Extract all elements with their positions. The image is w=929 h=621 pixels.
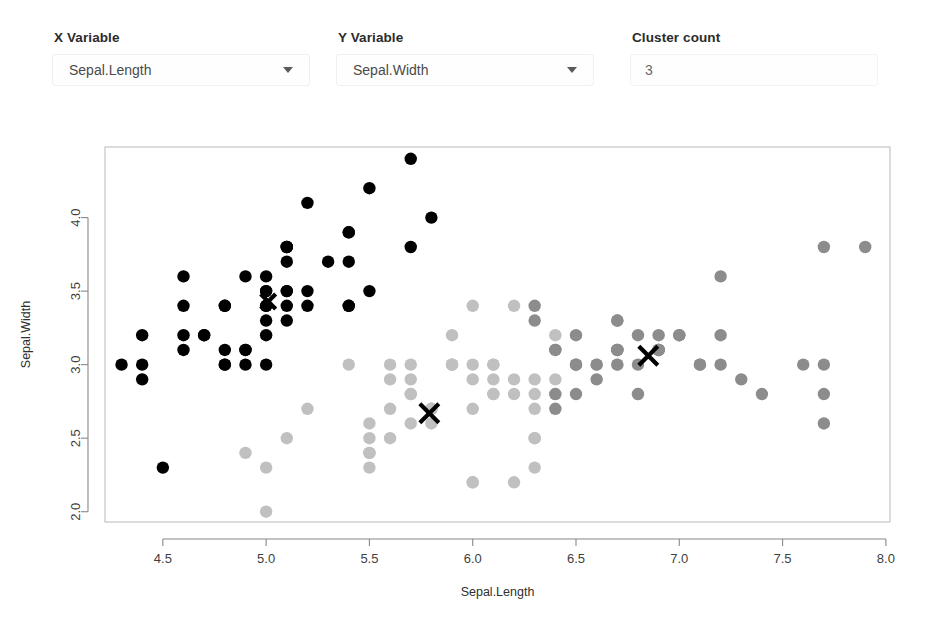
data-point [508, 476, 520, 488]
data-point [467, 300, 479, 312]
x-axis-tick-label: 6.0 [464, 551, 482, 566]
data-point [281, 256, 293, 268]
data-point [528, 388, 540, 400]
data-point [239, 344, 251, 356]
cluster-count-input[interactable]: 3 [630, 54, 878, 86]
data-point [818, 388, 830, 400]
chevron-down-icon[interactable] [283, 67, 293, 73]
data-point [652, 329, 664, 341]
data-point [590, 358, 602, 370]
data-point [343, 226, 355, 238]
data-point [446, 329, 458, 341]
y-axis-tick-label: 3.5 [69, 282, 84, 300]
data-point [818, 417, 830, 429]
data-point [363, 461, 375, 473]
data-point [570, 329, 582, 341]
data-point [219, 344, 231, 356]
data-point [425, 211, 437, 223]
data-point [405, 153, 417, 165]
data-point [136, 373, 148, 385]
data-point [487, 373, 499, 385]
data-point [363, 447, 375, 459]
data-point [673, 329, 685, 341]
data-point [632, 329, 644, 341]
data-point [260, 358, 272, 370]
data-point [363, 432, 375, 444]
x-axis-tick-label: 5.5 [360, 551, 378, 566]
data-point [549, 403, 561, 415]
plot-frame [105, 147, 890, 522]
data-point [343, 256, 355, 268]
data-point [281, 300, 293, 312]
data-point [281, 241, 293, 253]
data-point [239, 358, 251, 370]
data-point [384, 432, 396, 444]
data-point [611, 344, 623, 356]
data-point [508, 373, 520, 385]
data-point [115, 358, 127, 370]
series-cluster3 [528, 241, 871, 430]
data-point [405, 388, 417, 400]
data-point [487, 388, 499, 400]
data-point [343, 358, 355, 370]
x-variable-label: X Variable [54, 30, 310, 45]
data-point [735, 373, 747, 385]
x-axis-title: Sepal.Length [461, 585, 535, 599]
data-point [487, 358, 499, 370]
data-point [528, 403, 540, 415]
x-axis-tick-label: 8.0 [877, 551, 895, 566]
chevron-down-icon[interactable] [567, 67, 577, 73]
data-point [859, 241, 871, 253]
cluster-count-control: Cluster count 3 [630, 30, 878, 86]
data-point [467, 358, 479, 370]
y-axis-tick-label: 2.0 [69, 503, 84, 521]
data-point [177, 344, 189, 356]
data-point [467, 403, 479, 415]
y-axis-title: Sepal.Width [19, 301, 33, 368]
data-point [281, 432, 293, 444]
data-point [528, 314, 540, 326]
data-point [570, 388, 582, 400]
cluster-count-label: Cluster count [632, 30, 878, 45]
data-point [528, 432, 540, 444]
data-point [714, 270, 726, 282]
data-point [260, 461, 272, 473]
data-point [177, 270, 189, 282]
y-variable-select[interactable]: Sepal.Width [336, 54, 594, 86]
data-point [260, 314, 272, 326]
series-cluster1 [115, 153, 437, 474]
x-variable-select[interactable]: Sepal.Length [52, 54, 310, 86]
series-cluster2 [239, 300, 644, 518]
data-point [384, 373, 396, 385]
x-axis-tick-label: 5.0 [257, 551, 275, 566]
data-point [549, 344, 561, 356]
data-point [446, 358, 458, 370]
data-point [590, 373, 602, 385]
data-point [322, 256, 334, 268]
x-variable-selected-value: Sepal.Length [69, 62, 152, 78]
data-point [219, 300, 231, 312]
data-point [301, 197, 313, 209]
data-point [239, 447, 251, 459]
data-point [528, 461, 540, 473]
data-point [611, 314, 623, 326]
controls-panel: X Variable Sepal.Length Y Variable Sepal… [0, 0, 929, 120]
data-point [281, 285, 293, 297]
data-point [363, 417, 375, 429]
plot-svg: 4.55.05.56.06.57.07.58.02.02.53.03.54.0S… [0, 120, 929, 621]
y-variable-selected-value: Sepal.Width [353, 62, 428, 78]
y-variable-control: Y Variable Sepal.Width [336, 30, 594, 86]
data-point [384, 403, 396, 415]
data-point [219, 358, 231, 370]
centroid-cluster3 [639, 346, 658, 365]
axes-layer: 4.55.05.56.06.57.07.58.02.02.53.03.54.0S… [19, 147, 895, 599]
data-point [177, 329, 189, 341]
data-point [198, 329, 210, 341]
data-point [239, 270, 251, 282]
data-point [549, 329, 561, 341]
y-axis-tick-label: 4.0 [69, 209, 84, 227]
data-point [343, 300, 355, 312]
data-point [818, 241, 830, 253]
data-point [549, 388, 561, 400]
data-point [177, 300, 189, 312]
